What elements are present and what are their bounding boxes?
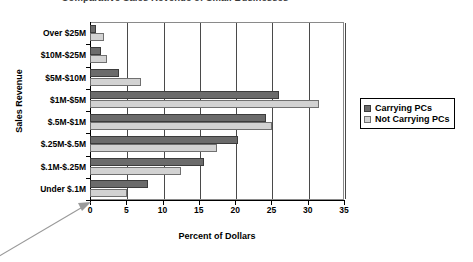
bar-not-carrying-pcs — [90, 167, 181, 175]
x-axis-tick-label: 25 — [259, 205, 283, 215]
bar-carrying-pcs — [90, 91, 279, 99]
x-axis-tick-label: 15 — [187, 205, 211, 215]
chart-container: Comparative Sales Revenue of Small Busin… — [0, 0, 473, 262]
x-axis-tick-label: 5 — [114, 205, 138, 215]
bar-carrying-pcs — [90, 69, 119, 77]
y-axis-category-label: $.5M-$1M — [0, 117, 86, 127]
bar-not-carrying-pcs — [90, 78, 141, 86]
bar-carrying-pcs — [90, 47, 101, 55]
bar-carrying-pcs — [90, 25, 96, 33]
bar-series-layer — [90, 22, 344, 200]
bar-not-carrying-pcs — [90, 122, 272, 130]
legend-label-carrying-pcs: Carrying PCs — [375, 103, 432, 113]
bar-carrying-pcs — [90, 180, 148, 188]
legend-item-carrying-pcs: Carrying PCs — [364, 103, 450, 113]
chart-legend: Carrying PCs Not Carrying PCs — [360, 98, 455, 129]
y-axis-category-label: Over $25M — [0, 28, 86, 38]
legend-swatch-icon-not-carrying-pcs — [364, 116, 371, 123]
y-axis-category-label: $10M-$25M — [0, 50, 86, 60]
y-axis-category-label: $.1M-$.25M — [0, 162, 86, 172]
y-axis-category-label: $.25M-$.5M — [0, 139, 86, 149]
bar-carrying-pcs — [90, 136, 238, 144]
y-axis-category-label: $5M-$10M — [0, 73, 86, 83]
x-axis-tick-label: 10 — [151, 205, 175, 215]
legend-item-not-carrying-pcs: Not Carrying PCs — [364, 114, 450, 124]
bar-carrying-pcs — [90, 114, 266, 122]
legend-label-not-carrying-pcs: Not Carrying PCs — [375, 114, 450, 124]
x-axis-tick-label: 30 — [296, 205, 320, 215]
x-axis-tick-label: 35 — [332, 205, 356, 215]
y-axis-title: Sales Revenue — [14, 46, 24, 156]
bar-not-carrying-pcs — [90, 55, 107, 63]
bar-not-carrying-pcs — [90, 100, 319, 108]
x-axis-title: Percent of Dollars — [90, 231, 344, 241]
gridline — [345, 23, 346, 199]
y-axis-category-label: $1M-$5M — [0, 95, 86, 105]
origin-pointer-arrow-icon — [0, 196, 104, 262]
bar-not-carrying-pcs — [90, 144, 217, 152]
legend-swatch-icon-carrying-pcs — [364, 105, 371, 112]
bar-carrying-pcs — [90, 158, 204, 166]
y-axis-category-label: Under $.1M — [0, 184, 86, 194]
bar-not-carrying-pcs — [90, 33, 104, 41]
x-axis-tick-label: 20 — [223, 205, 247, 215]
